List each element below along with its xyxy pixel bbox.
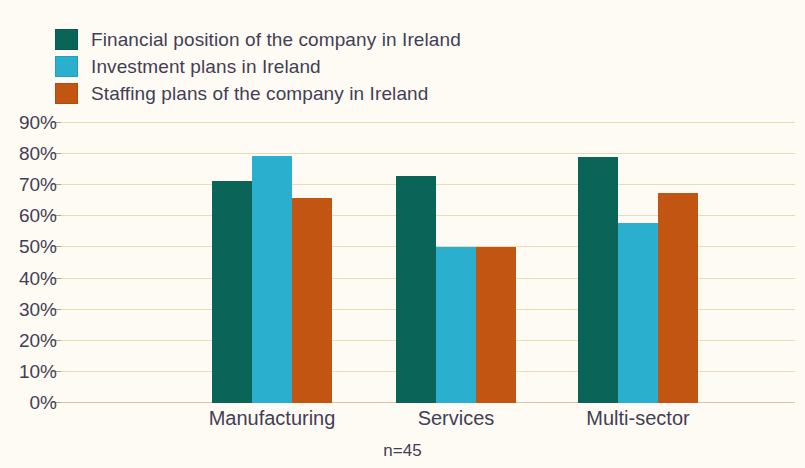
bar (476, 247, 516, 403)
category-axis-label: Multi-sector (518, 408, 758, 428)
legend-item-label: Financial position of the company in Ire… (91, 30, 461, 49)
bar-group (396, 118, 516, 403)
bar (212, 181, 252, 403)
bar (618, 223, 658, 403)
bar (292, 198, 332, 403)
chart-legend: Financial position of the company in Ire… (55, 26, 675, 107)
bar (578, 157, 618, 403)
bar-group (578, 118, 698, 403)
legend-swatch-icon (55, 29, 78, 50)
legend-item-label: Staffing plans of the company in Ireland (91, 84, 428, 103)
legend-item: Staffing plans of the company in Ireland (55, 80, 675, 107)
bar (658, 193, 698, 403)
bar-chart: Financial position of the company in Ire… (0, 0, 805, 468)
chart-footnote: n=45 (0, 442, 805, 459)
legend-item: Investment plans in Ireland (55, 53, 675, 80)
bar (396, 176, 436, 403)
legend-swatch-icon (55, 56, 78, 77)
legend-item-label: Investment plans in Ireland (91, 57, 321, 76)
bar (436, 247, 476, 403)
bar (252, 156, 292, 403)
legend-swatch-icon (55, 83, 78, 104)
bar-group (212, 118, 332, 403)
bars (0, 118, 805, 403)
legend-item: Financial position of the company in Ire… (55, 26, 675, 53)
plot-area: 90%80%70%60%50%40%30%20%10%0% (0, 118, 805, 403)
